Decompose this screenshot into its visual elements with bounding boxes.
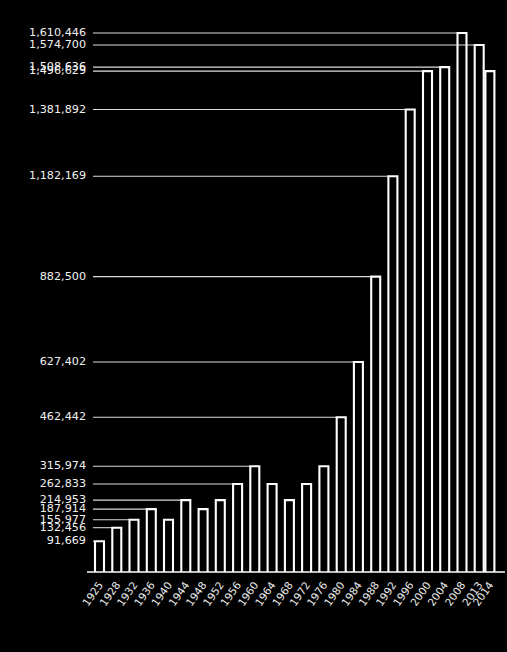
bar-1980[interactable] — [337, 417, 346, 572]
leader-line-group — [93, 33, 475, 541]
bar-1984[interactable] — [354, 362, 363, 572]
bar-1956[interactable] — [233, 484, 242, 572]
value-label-462442: 462,442 — [40, 410, 86, 423]
bar-1976[interactable] — [319, 466, 328, 572]
bar-1960[interactable] — [250, 466, 259, 572]
bar-1992[interactable] — [388, 176, 397, 572]
bar-2013[interactable] — [475, 45, 484, 572]
bar-2004[interactable] — [440, 67, 449, 572]
value-label-132456: 132,456 — [40, 521, 86, 534]
value-label-882500: 882,500 — [40, 270, 86, 283]
bar-1972[interactable] — [302, 484, 311, 572]
bar-1925[interactable] — [95, 541, 104, 572]
x-tick-label-group: 1925192819321936194019441948195219561960… — [80, 579, 496, 608]
value-label-262833: 262,833 — [40, 477, 86, 490]
value-label-group: 1,610,4461,574,7001,508,6361,496,6291,38… — [29, 26, 86, 547]
bar-1936[interactable] — [147, 509, 156, 572]
bar-1964[interactable] — [268, 484, 277, 572]
value-label-1574700: 1,574,700 — [29, 38, 86, 51]
value-label-627402: 627,402 — [40, 355, 86, 368]
bar-group — [95, 33, 494, 572]
bar-1940[interactable] — [164, 520, 173, 572]
value-label-1182169: 1,182,169 — [29, 169, 86, 182]
bar-1928[interactable] — [112, 528, 121, 572]
bar-2014[interactable] — [485, 71, 494, 572]
bar-chart: 1,610,4461,574,7001,508,6361,496,6291,38… — [0, 0, 507, 652]
bar-1944[interactable] — [181, 500, 190, 572]
bar-1968[interactable] — [285, 500, 294, 572]
value-label-1496629: 1,496,629 — [29, 64, 86, 77]
bar-1932[interactable] — [130, 520, 139, 572]
value-label-91669: 91,669 — [47, 534, 86, 547]
bar-1948[interactable] — [199, 509, 208, 572]
value-label-1381892: 1,381,892 — [29, 103, 86, 116]
value-label-315974: 315,974 — [40, 459, 86, 472]
bar-1988[interactable] — [371, 277, 380, 572]
bar-2000[interactable] — [423, 71, 432, 572]
chart-canvas: 1,610,4461,574,7001,508,6361,496,6291,38… — [0, 0, 507, 652]
bar-2008[interactable] — [458, 33, 467, 572]
bar-1996[interactable] — [406, 110, 415, 573]
bar-1952[interactable] — [216, 500, 225, 572]
